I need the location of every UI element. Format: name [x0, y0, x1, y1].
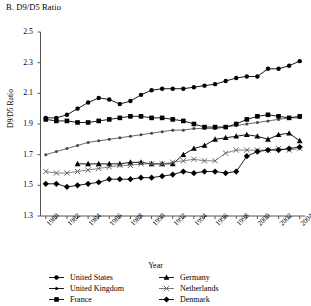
data-point-diamond	[117, 176, 123, 182]
data-point-diamond	[254, 149, 260, 155]
data-point-dot-line	[266, 119, 269, 122]
legend-marker-dot-line-icon	[48, 284, 65, 293]
data-point-square	[128, 114, 133, 119]
legend-item-france[interactable]: France	[48, 294, 152, 305]
data-point-circle-small	[266, 67, 270, 71]
data-point-dot-line	[118, 136, 121, 139]
legend-marker-diamond-icon	[158, 295, 175, 304]
data-point-square	[107, 117, 112, 122]
legend-label: France	[70, 294, 92, 305]
data-point-triangle	[244, 132, 250, 137]
chart-panel: B. D9/D5 Ratio D9/D5 Ratio Year 2.52.32.…	[0, 0, 311, 306]
series-line	[46, 149, 300, 174]
data-point-diamond	[180, 168, 186, 174]
data-point-square	[139, 114, 144, 119]
data-point-square	[234, 122, 239, 127]
data-point-square	[96, 119, 101, 124]
y-tick-label: 1.9	[11, 119, 33, 128]
data-point-circle-small	[139, 93, 143, 97]
legend-item-united-kingdom[interactable]: United Kingdom	[48, 283, 152, 294]
legend-label: Netherlands	[180, 283, 219, 294]
data-point-dot-line	[150, 132, 153, 135]
data-point-circle-small	[75, 106, 79, 110]
data-point-dot-line	[161, 130, 164, 133]
legend-marker-triangle-icon	[158, 273, 175, 282]
y-tick-label: 1.3	[11, 211, 33, 220]
data-point-triangle	[286, 130, 292, 135]
y-tick-label: 2.1	[11, 88, 33, 97]
data-point-square	[266, 113, 271, 118]
data-point-triangle	[180, 152, 186, 157]
data-point-diamond	[127, 176, 133, 182]
data-point-circle-small	[287, 64, 291, 68]
y-tick-label: 2.5	[11, 27, 33, 36]
data-point-circle-small	[160, 87, 164, 91]
data-point-diamond	[212, 168, 218, 174]
data-point-diamond	[163, 296, 169, 302]
legend-label: United Kingdom	[70, 283, 124, 294]
data-point-diamond	[85, 181, 91, 187]
legend-item-denmark[interactable]: Denmark	[158, 294, 268, 305]
data-point-dot-line	[171, 129, 174, 132]
y-tick-label: 1.5	[11, 180, 33, 189]
plot-area	[0, 0, 311, 306]
data-point-circle-small	[118, 102, 122, 106]
data-point-diamond	[96, 179, 102, 185]
data-point-circle-small	[298, 59, 302, 63]
data-point-circle-small	[107, 97, 111, 101]
data-point-circle-small	[96, 96, 100, 100]
data-point-square	[297, 114, 302, 119]
data-point-square	[170, 117, 175, 122]
legend-item-germany[interactable]: Germany	[158, 272, 268, 283]
data-point-diamond	[43, 181, 49, 187]
data-point-dot-line	[55, 150, 58, 153]
legend-item-united-states[interactable]: United States	[48, 272, 152, 283]
data-point-square	[287, 116, 292, 121]
data-point-triangle	[202, 142, 208, 147]
y-tick-label: 1.7	[11, 150, 33, 159]
series-united-states	[44, 59, 302, 120]
data-point-dot-line	[129, 135, 132, 138]
data-point-diamond	[106, 176, 112, 182]
legend-marker-cross-icon	[158, 284, 175, 293]
data-point-dot-line	[55, 287, 58, 290]
data-point-cross	[223, 151, 228, 156]
data-point-circle-small	[234, 76, 238, 80]
chart-legend: United StatesGermanyUnited KingdomNether…	[48, 272, 298, 305]
data-point-diamond	[170, 172, 176, 178]
data-point-dot-line	[76, 144, 79, 147]
data-point-square	[86, 120, 91, 125]
data-point-triangle	[297, 138, 303, 143]
data-point-diamond	[74, 182, 80, 188]
data-point-square	[255, 114, 260, 119]
legend-item-netherlands[interactable]: Netherlands	[158, 283, 268, 294]
legend-label: United States	[70, 272, 113, 283]
data-point-diamond	[275, 147, 281, 153]
data-point-diamond	[244, 153, 250, 159]
data-point-square	[245, 117, 250, 122]
data-point-dot-line	[108, 138, 111, 141]
series-france	[43, 113, 302, 130]
data-point-diamond	[53, 181, 59, 187]
legend-marker-square-icon	[48, 295, 65, 304]
data-point-square	[118, 116, 123, 121]
legend-label: Denmark	[180, 294, 210, 305]
data-point-circle-small	[149, 88, 153, 92]
data-point-square	[276, 114, 281, 119]
data-point-circle-small	[255, 74, 259, 78]
data-point-dot-line	[97, 139, 100, 142]
y-tick-label: 2.3	[11, 58, 33, 67]
legend-label: Germany	[180, 272, 210, 283]
data-point-diamond	[233, 168, 239, 174]
data-point-square	[223, 125, 228, 130]
data-point-diamond	[159, 173, 165, 179]
data-point-dot-line	[140, 133, 143, 136]
data-point-dot-line	[65, 147, 68, 150]
data-point-square	[213, 125, 218, 130]
data-point-square	[202, 125, 207, 130]
data-point-diamond	[223, 170, 229, 176]
data-point-diamond	[138, 175, 144, 181]
data-point-circle-small	[128, 99, 132, 103]
legend-marker-circle-small-icon	[48, 273, 65, 282]
series-line	[46, 147, 300, 187]
